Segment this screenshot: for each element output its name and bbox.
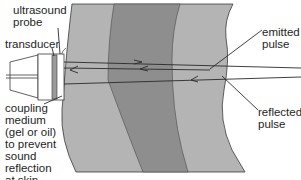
leader-reflected: [222, 76, 258, 110]
probe-head: [38, 54, 64, 100]
label-emitted-pulse: emitted pulse: [262, 26, 300, 50]
label-coupling-medium: coupling medium (gel or oil) to prevent …: [5, 102, 56, 180]
ultrasound-diagram: ultrasound probe transducer coupling med…: [0, 0, 301, 180]
probe-handle: [10, 55, 38, 98]
label-transducer: transducer: [5, 38, 59, 50]
label-ultrasound-probe: ultrasound probe: [13, 4, 67, 28]
transducer-crystal: [52, 55, 57, 99]
label-reflected-pulse: reflected pulse: [258, 106, 301, 130]
ultrasound-probe: [6, 54, 64, 100]
